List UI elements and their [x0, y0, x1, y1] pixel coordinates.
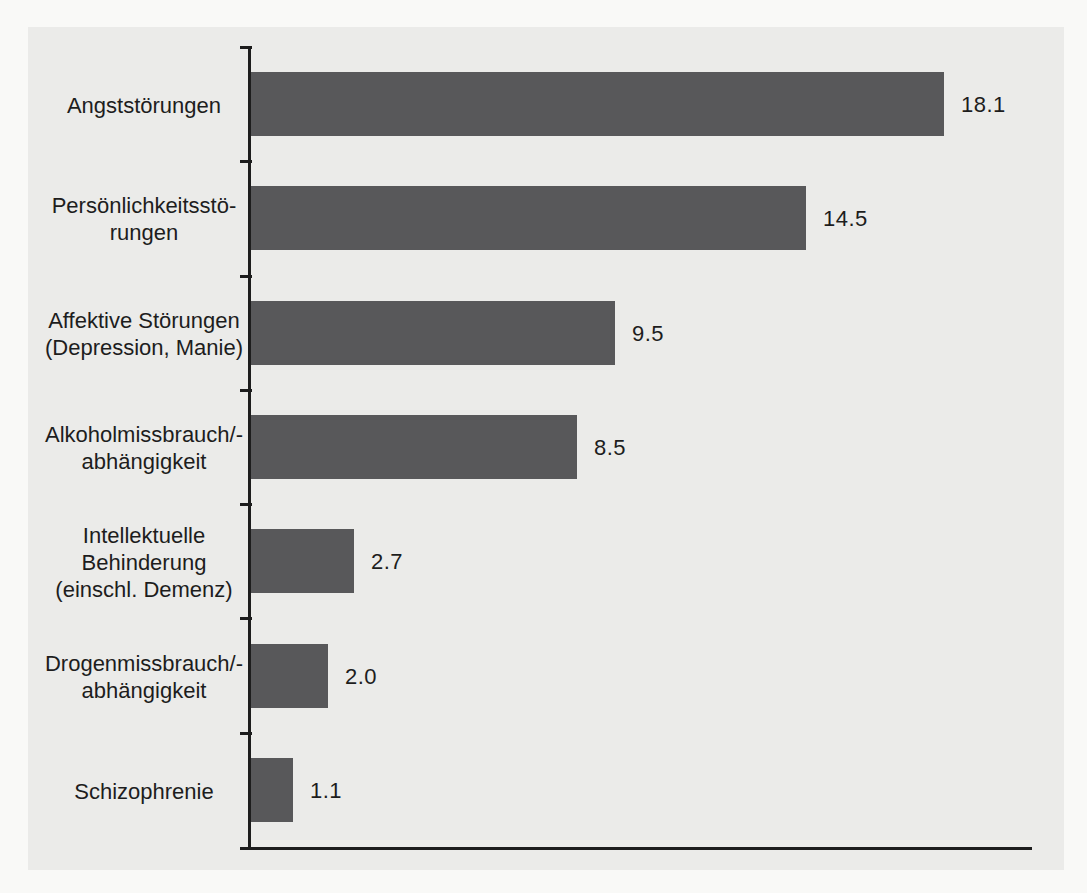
category-label: Affektive Störungen(Depression, Manie) — [40, 307, 248, 361]
bar — [251, 644, 328, 708]
category-tick — [240, 389, 252, 392]
category-tick — [240, 732, 252, 735]
value-label: 8.5 — [594, 435, 626, 461]
category-label: Drogenmissbrauch/-abhängigkeit — [40, 650, 248, 704]
category-tick — [240, 503, 252, 506]
category-label-line: Persönlichkeitsstö- — [40, 192, 248, 219]
category-label: Angststörungen — [40, 92, 248, 119]
category-label-line: abhängigkeit — [40, 448, 248, 475]
bar — [251, 758, 293, 822]
category-tick — [240, 617, 252, 620]
category-label-line: (Depression, Manie) — [40, 334, 248, 361]
bar — [251, 301, 615, 365]
value-label: 2.0 — [345, 664, 377, 690]
scanned-chart-page: Angststörungen18.1Persönlichkeitsstö-run… — [0, 0, 1087, 893]
category-tick — [240, 160, 252, 163]
value-label: 14.5 — [823, 206, 868, 232]
value-label: 18.1 — [961, 92, 1006, 118]
category-tick — [240, 46, 252, 49]
value-label: 1.1 — [310, 778, 342, 804]
category-label: Alkoholmissbrauch/-abhängigkeit — [40, 421, 248, 475]
category-label: IntellektuelleBehinderung(einschl. Demen… — [40, 522, 248, 603]
category-label-line: Angststörungen — [40, 92, 248, 119]
bar — [251, 529, 354, 593]
bar — [251, 415, 577, 479]
category-label-line: rungen — [40, 219, 248, 246]
category-label-line: Alkoholmissbrauch/- — [40, 421, 248, 448]
value-label: 2.7 — [371, 549, 403, 575]
category-label-line: Schizophrenie — [40, 778, 248, 805]
category-tick — [240, 275, 252, 278]
category-label: Schizophrenie — [40, 778, 248, 805]
value-label: 9.5 — [632, 321, 664, 347]
bar — [251, 72, 944, 136]
bar — [251, 186, 806, 250]
category-label-line: Affektive Störungen — [40, 307, 248, 334]
category-label-line: abhängigkeit — [40, 677, 248, 704]
category-label-line: Intellektuelle — [40, 522, 248, 549]
category-label-line: Behinderung — [40, 549, 248, 576]
category-label: Persönlichkeitsstö-rungen — [40, 192, 248, 246]
x-axis-line — [240, 847, 1032, 850]
category-label-line: (einschl. Demenz) — [40, 576, 248, 603]
category-label-line: Drogenmissbrauch/- — [40, 650, 248, 677]
